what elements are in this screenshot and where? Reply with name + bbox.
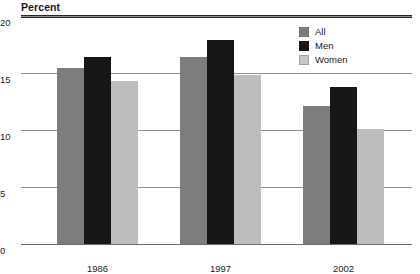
legend-swatch-icon: [299, 55, 309, 65]
chart-legend: AllMenWomen: [299, 25, 379, 67]
legend-item-men: Men: [299, 39, 379, 52]
y-axis-tick-label: 5: [0, 189, 20, 199]
legend-item-label: Men: [315, 40, 333, 51]
legend-swatch-icon: [299, 41, 309, 51]
legend-item-all: All: [299, 25, 379, 38]
bar-1986-women: [111, 81, 138, 244]
y-axis-tick-label: 20: [0, 18, 20, 28]
page-title: Percent: [21, 1, 60, 13]
bar-2002-all: [303, 106, 330, 244]
bar-1997-all: [180, 57, 207, 244]
y-axis-tick-label: 10: [0, 132, 20, 142]
gridline: [21, 16, 412, 17]
legend-item-label: All: [315, 26, 326, 37]
bar-1986-all: [57, 68, 84, 244]
bar-2002-men: [330, 87, 357, 244]
legend-item-label: Women: [315, 54, 348, 65]
axis-baseline: [21, 244, 412, 245]
bar-1997-women: [234, 75, 261, 244]
y-axis-tick-label: 15: [0, 75, 20, 85]
caption-cutoff: [21, 265, 412, 271]
y-axis-tick-label: 0: [0, 246, 20, 256]
bar-1997-men: [207, 40, 234, 244]
bar-1986-men: [84, 57, 111, 244]
legend-swatch-icon: [299, 27, 309, 37]
legend-item-women: Women: [299, 53, 379, 66]
bar-2002-women: [357, 129, 384, 244]
